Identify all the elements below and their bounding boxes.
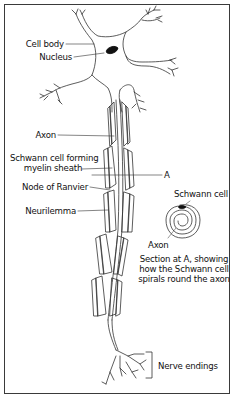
label-inset-axon: Axon (148, 240, 169, 250)
label-nucleus: Nucleus (24, 52, 72, 62)
nerve-endings-branches (102, 320, 146, 384)
label-inset-schwann-cell: Schwann cell (174, 189, 228, 199)
label-neurilemma: Neurilemma (10, 206, 76, 216)
caption-line-2: how the Schwann cell (136, 264, 232, 274)
caption-line-1: Section at A, showing (136, 254, 232, 264)
nerve-endings-bracket (146, 352, 152, 378)
section-inset (166, 201, 200, 238)
label-section-a: A (164, 170, 170, 180)
label-nerve-endings: Nerve endings (158, 361, 218, 371)
label-axon: Axon (20, 130, 56, 140)
label-node-of-ranvier: Node of Ranvier (10, 182, 88, 192)
axon-and-myelin (92, 100, 134, 320)
label-cell-body: Cell body (14, 39, 64, 49)
label-myelin-sheath: myelin sheath (10, 163, 96, 173)
nucleus-shape (105, 45, 118, 55)
label-schwann-cell-forming: Schwann cell forming (10, 153, 96, 163)
caption-line-3: spirals round the axon (136, 274, 232, 284)
